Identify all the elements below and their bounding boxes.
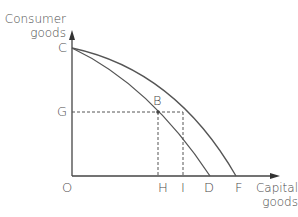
x-axis-arrow-icon [270,173,280,179]
y-axis-arrow-icon [69,30,75,40]
point-b-label: B [153,94,162,108]
point-g-label: G [57,105,67,119]
point-d-label: D [204,181,214,195]
y-axis-label-line1: Consumer [0,12,66,26]
y-axis-label-line2: goods [0,26,66,40]
point-i-label: I [181,181,185,195]
x-axis-label-line2: goods [250,195,298,209]
x-axis-label: Capital goods [250,181,298,209]
point-f-label: F [235,181,242,195]
point-b-marker [156,110,160,114]
origin-label: O [62,181,72,195]
point-h-label: H [158,181,168,195]
x-axis-label-line1: Capital [250,181,298,195]
point-c-label: C [58,41,67,55]
y-axis-label: Consumer goods [0,12,66,40]
